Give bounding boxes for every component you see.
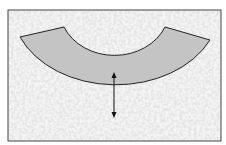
diagram-canvas xyxy=(0,0,226,145)
